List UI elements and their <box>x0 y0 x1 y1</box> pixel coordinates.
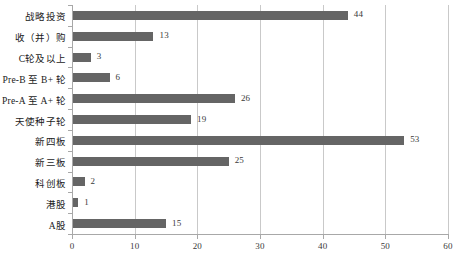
gridline-60 <box>448 5 449 234</box>
bar-value-label: 44 <box>354 9 363 19</box>
gridline-40 <box>323 5 324 234</box>
y-tick <box>68 213 72 214</box>
x-tick-20 <box>197 235 198 239</box>
x-tick-0 <box>72 235 73 239</box>
y-axis-line <box>72 5 73 234</box>
bar-value-label: 26 <box>241 93 250 103</box>
category-label: Pre-B 至 B+ 轮 <box>0 72 66 86</box>
category-label: 新四板 <box>0 134 66 148</box>
plot-area <box>72 5 448 234</box>
y-tick <box>68 234 72 235</box>
x-tick-10 <box>135 235 136 239</box>
category-label: 新三板 <box>0 155 66 169</box>
x-tick-label: 60 <box>443 241 452 251</box>
bar <box>72 94 235 103</box>
bar-value-label: 13 <box>159 30 168 40</box>
y-tick <box>68 192 72 193</box>
y-tick <box>68 26 72 27</box>
bar <box>72 53 91 62</box>
bar <box>72 157 229 166</box>
bar-value-label: 1 <box>84 197 89 207</box>
x-tick-label: 50 <box>381 241 390 251</box>
x-tick-60 <box>448 235 449 239</box>
x-tick-label: 10 <box>130 241 139 251</box>
y-tick <box>68 109 72 110</box>
y-tick <box>68 151 72 152</box>
x-tick-30 <box>260 235 261 239</box>
category-label: A股 <box>0 218 66 232</box>
bar-value-label: 2 <box>91 176 96 186</box>
gridline-50 <box>385 5 386 234</box>
bar-chart: 0102030405060 战略投资收（并）购C轮及以上Pre-B 至 B+ 轮… <box>0 0 460 269</box>
y-tick <box>68 130 72 131</box>
category-label: 战略投资 <box>0 9 66 23</box>
x-tick-label: 0 <box>70 241 75 251</box>
bar-value-label: 6 <box>116 72 121 82</box>
x-tick-label: 40 <box>318 241 327 251</box>
bar-value-label: 19 <box>197 114 206 124</box>
y-tick <box>68 88 72 89</box>
bar <box>72 115 191 124</box>
x-tick-40 <box>323 235 324 239</box>
category-label: C轮及以上 <box>0 51 66 65</box>
bar-value-label: 53 <box>410 134 419 144</box>
category-label: 科创板 <box>0 176 66 190</box>
bar <box>72 11 348 20</box>
y-tick <box>68 67 72 68</box>
category-label: 天使种子轮 <box>0 114 66 128</box>
bar <box>72 136 404 145</box>
category-label: Pre-A 至 A+ 轮 <box>0 93 66 107</box>
bar-value-label: 25 <box>235 155 244 165</box>
bar <box>72 73 110 82</box>
category-label: 港股 <box>0 197 66 211</box>
bar <box>72 219 166 228</box>
bar-value-label: 3 <box>97 51 102 61</box>
bar <box>72 32 153 41</box>
category-label: 收（并）购 <box>0 30 66 44</box>
y-tick <box>68 5 72 6</box>
x-tick-50 <box>385 235 386 239</box>
bar <box>72 177 85 186</box>
y-tick <box>68 47 72 48</box>
x-tick-label: 20 <box>193 241 202 251</box>
gridline-30 <box>260 5 261 234</box>
bar-value-label: 15 <box>172 218 181 228</box>
x-tick-label: 30 <box>255 241 264 251</box>
y-tick <box>68 172 72 173</box>
